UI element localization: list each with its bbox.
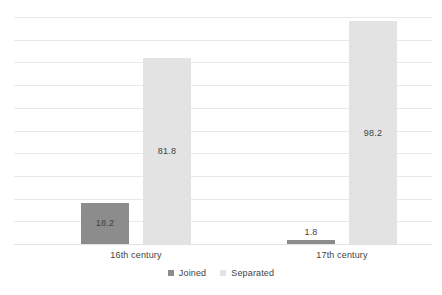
bar-separated-16th-century: 81.8 — [143, 58, 191, 244]
bar-value-label: 18.2 — [81, 218, 129, 228]
bar-joined-16th-century: 18.2 — [81, 203, 129, 244]
legend-label: Separated — [231, 268, 274, 278]
bar-value-label: 81.8 — [143, 146, 191, 156]
bar-value-label: 1.8 — [287, 227, 335, 237]
square-swatch-joined-icon — [168, 270, 174, 276]
bars-layer: 18.281.81.898.2 — [14, 17, 432, 244]
category-axis: 16th century17th century — [14, 250, 432, 266]
legend-item-separated[interactable]: Separated — [220, 268, 274, 278]
bar-value-label: 98.2 — [349, 128, 397, 138]
chart-legend: JoinedSeparated — [0, 268, 442, 278]
legend-label: Joined — [179, 268, 206, 278]
bar-joined-17th-century: 1.8 — [287, 240, 335, 244]
bar-separated-17th-century: 98.2 — [349, 21, 397, 244]
category-label-17th-century: 17th century — [282, 250, 402, 260]
legend-item-joined[interactable]: Joined — [168, 268, 206, 278]
bar-chart-figure: 18.281.81.898.2 16th century17th century… — [0, 0, 442, 295]
plot-area: 18.281.81.898.2 — [14, 17, 432, 244]
square-swatch-separated-icon — [220, 270, 226, 276]
category-label-16th-century: 16th century — [76, 250, 196, 260]
axis-baseline — [14, 244, 432, 245]
